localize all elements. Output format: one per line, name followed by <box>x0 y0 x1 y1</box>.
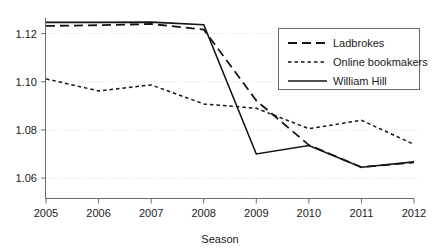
legend-label-ladbrokes: Ladbrokes <box>333 37 385 49</box>
y-tick-label: 1.12 <box>16 28 37 40</box>
y-tick-label: 1.06 <box>16 172 37 184</box>
legend-label-online-bookmakers: Online bookmakers <box>333 56 428 68</box>
legend: LadbrokesOnline bookmakersWilliam Hill <box>279 29 429 90</box>
y-tick-label: 1.10 <box>16 76 37 88</box>
x-tick-marks <box>46 199 414 204</box>
x-tick-label: 2009 <box>244 207 268 219</box>
x-axis-title: Season <box>201 233 238 245</box>
x-tick-label: 2010 <box>297 207 321 219</box>
x-tick-label: 2005 <box>34 207 58 219</box>
line-chart: 1.061.081.101.12 20052006200720082009201… <box>0 0 438 249</box>
chart-figure: 1.061.081.101.12 20052006200720082009201… <box>0 0 438 249</box>
y-tick-labels: 1.061.081.101.12 <box>16 28 37 184</box>
legend-label-william-hill: William Hill <box>333 75 387 87</box>
x-tick-labels: 20052006200720082009201020112012 <box>34 207 426 219</box>
x-tick-label: 2012 <box>402 207 426 219</box>
y-tick-label: 1.08 <box>16 124 37 136</box>
x-tick-label: 2006 <box>86 207 110 219</box>
x-tick-label: 2008 <box>191 207 215 219</box>
x-tick-label: 2011 <box>350 207 374 219</box>
x-tick-label: 2007 <box>139 207 163 219</box>
